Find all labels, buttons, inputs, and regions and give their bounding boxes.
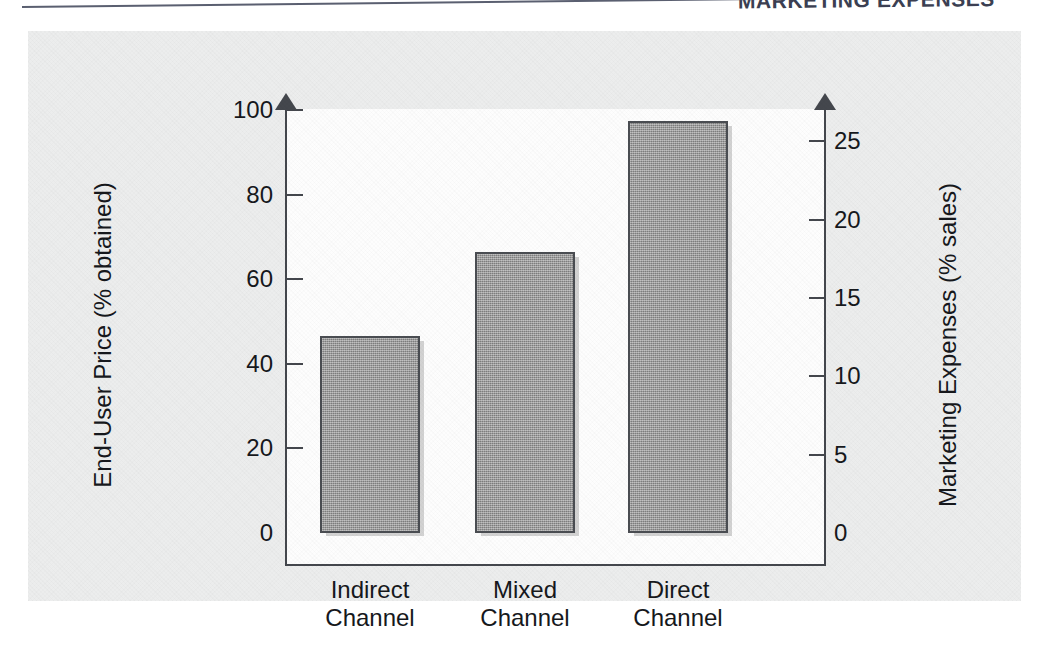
y-axis-right-tick — [809, 219, 825, 221]
y-axis-right-tick — [809, 140, 825, 142]
x-axis-category-label-line: Channel — [445, 604, 605, 632]
y-axis-left-tick — [287, 363, 303, 365]
y-axis-left-title: End-User Price (% obtained) — [89, 125, 117, 545]
x-axis-category-label-line: Mixed — [445, 576, 605, 604]
page-header-title: MARKETING EXPENSES — [738, 0, 995, 13]
y-axis-right-labels: 0510152025 — [834, 31, 924, 601]
y-axis-right-tick-label: 15 — [834, 286, 861, 310]
x-axis-category-label-line: Indirect — [290, 576, 450, 604]
figure-panel: 020406080100 0510152025 End-User Price (… — [28, 31, 1021, 601]
y-axis-right-tick-label: 25 — [834, 129, 861, 153]
x-axis-category-label: MixedChannel — [445, 576, 605, 631]
page-header: MARKETING EXPENSES — [0, 0, 1047, 30]
bar-mixed-channel — [475, 252, 575, 533]
bar-direct-channel — [628, 121, 728, 533]
y-axis-left-tick-label: 80 — [246, 183, 273, 207]
y-axis-right-tick — [809, 297, 825, 299]
y-axis-left-tick-label: 60 — [246, 267, 273, 291]
y-axis-left-labels: 020406080100 — [178, 31, 273, 601]
x-axis-category-label-line: Channel — [290, 604, 450, 632]
y-axis-left-tick-label: 20 — [246, 436, 273, 460]
y-axis-right-tick-label: 0 — [834, 521, 847, 545]
y-axis-left-tick — [287, 447, 303, 449]
y-axis-right-tick — [809, 375, 825, 377]
y-axis-left-arrow-icon — [275, 93, 297, 110]
x-axis-category-label-line: Direct — [598, 576, 758, 604]
y-axis-right-tick-label: 20 — [834, 208, 861, 232]
y-axis-left-tick-label: 40 — [246, 352, 273, 376]
y-axis-right-tick-label: 10 — [834, 364, 861, 388]
x-axis-category-label: DirectChannel — [598, 576, 758, 631]
y-axis-right-tick — [809, 454, 825, 456]
bar-indirect-channel — [320, 336, 420, 533]
y-axis-right-arrow-icon — [814, 93, 836, 110]
x-axis-category-label-line: Channel — [598, 604, 758, 632]
x-axis-category-label: IndirectChannel — [290, 576, 450, 631]
y-axis-left-line — [285, 109, 287, 566]
x-axis-line — [285, 564, 826, 566]
y-axis-left-tick — [287, 278, 303, 280]
y-axis-right-title: Marketing Expenses (% sales) — [934, 125, 962, 565]
y-axis-left-tick — [287, 194, 303, 196]
y-axis-left-tick — [287, 109, 303, 111]
y-axis-right-line — [824, 109, 826, 566]
y-axis-right-tick-label: 5 — [834, 443, 847, 467]
y-axis-left-tick-label: 100 — [233, 98, 273, 122]
y-axis-left-tick-label: 0 — [260, 521, 273, 545]
